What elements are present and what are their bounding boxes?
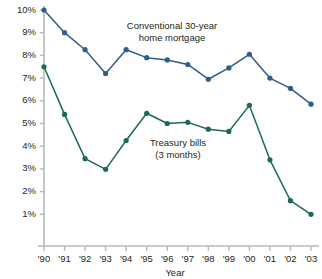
- y-tick-group: 1%2%3%4%5%6%7%8%9%10%: [17, 4, 44, 219]
- x-tick-label: '90: [38, 253, 50, 264]
- data-point-marker: [103, 167, 108, 172]
- data-point-marker: [82, 156, 87, 161]
- y-tick-label: 9%: [22, 26, 36, 37]
- x-tick-label: '96: [161, 253, 173, 264]
- x-tick-label: '93: [99, 253, 111, 264]
- data-point-marker: [144, 55, 149, 60]
- y-tick-label: 6%: [22, 94, 36, 105]
- tbills-label-line1: Treasury bills: [150, 137, 206, 148]
- data-point-marker: [206, 77, 211, 82]
- data-point-marker: [226, 129, 231, 134]
- x-tick-label: '98: [202, 253, 214, 264]
- x-tick-label: '91: [58, 253, 70, 264]
- rate-comparison-line-chart: 1%2%3%4%5%6%7%8%9%10% '90'91'92'93'94'95…: [0, 0, 322, 279]
- data-point-marker: [206, 127, 211, 132]
- data-point-marker: [267, 157, 272, 162]
- data-point-marker: [124, 47, 129, 52]
- x-tick-label: '02: [284, 253, 296, 264]
- y-tick-label: 5%: [22, 117, 36, 128]
- data-point-marker: [124, 138, 129, 143]
- data-point-marker: [62, 112, 67, 117]
- data-point-marker: [288, 86, 293, 91]
- data-point-marker: [41, 7, 46, 12]
- data-point-marker: [308, 212, 313, 217]
- chart-svg: 1%2%3%4%5%6%7%8%9%10% '90'91'92'93'94'95…: [0, 0, 322, 279]
- x-tick-label: '03: [305, 253, 317, 264]
- x-tick-label: '99: [223, 253, 235, 264]
- data-point-marker: [185, 120, 190, 125]
- y-tick-label: 7%: [22, 72, 36, 83]
- y-tick-label: 8%: [22, 49, 36, 60]
- data-point-marker: [62, 30, 67, 35]
- data-point-marker: [308, 102, 313, 107]
- data-point-marker: [247, 103, 252, 108]
- series-annotation-mortgage: Conventional 30-year home mortgage: [127, 20, 217, 43]
- x-tick-label: '00: [243, 253, 255, 264]
- series-annotation-tbills: Treasury bills (3 months): [150, 137, 206, 160]
- data-point-marker: [144, 111, 149, 116]
- data-point-marker: [185, 62, 190, 67]
- data-point-marker: [165, 57, 170, 62]
- x-tick-label: '94: [120, 253, 132, 264]
- x-tick-group: '90'91'92'93'94'95'96'97'98'99'00'01'02'…: [38, 246, 317, 264]
- data-point-marker: [103, 71, 108, 76]
- tbills-label-line2: (3 months): [155, 149, 200, 160]
- data-point-marker: [226, 65, 231, 70]
- x-axis: '90'91'92'93'94'95'96'97'98'99'00'01'02'…: [38, 246, 319, 264]
- y-tick-label: 3%: [22, 162, 36, 173]
- data-point-marker: [41, 64, 46, 69]
- x-tick-label: '01: [264, 253, 276, 264]
- y-axis: 1%2%3%4%5%6%7%8%9%10%: [17, 4, 44, 246]
- x-tick-label: '95: [140, 253, 152, 264]
- mortgage-label-line2: home mortgage: [139, 32, 206, 43]
- data-point-marker: [165, 121, 170, 126]
- mortgage-label-line1: Conventional 30-year: [127, 20, 217, 31]
- data-point-marker: [247, 52, 252, 57]
- data-point-marker: [288, 198, 293, 203]
- y-tick-label: 10%: [17, 4, 37, 15]
- x-axis-title: Year: [165, 267, 184, 278]
- y-tick-label: 1%: [22, 208, 36, 219]
- x-tick-label: '92: [79, 253, 91, 264]
- y-tick-label: 4%: [22, 140, 36, 151]
- data-point-marker: [82, 47, 87, 52]
- x-tick-label: '97: [182, 253, 194, 264]
- y-tick-label: 2%: [22, 185, 36, 196]
- data-point-marker: [267, 76, 272, 81]
